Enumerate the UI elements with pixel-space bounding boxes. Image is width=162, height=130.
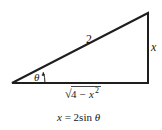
triangle-diagram: 2 x θ √ 4 − x 2 x = 2sin θ bbox=[0, 0, 162, 130]
radicand-var: x bbox=[88, 88, 94, 100]
hypotenuse-label: 2 bbox=[86, 32, 92, 46]
radicand-prefix: 4 − bbox=[71, 88, 85, 100]
svg-text:x = 2sin θ: x = 2sin θ bbox=[56, 111, 101, 123]
angle-label: θ bbox=[34, 71, 40, 83]
caption-angle: θ bbox=[95, 111, 101, 123]
radicand-exponent: 2 bbox=[95, 86, 99, 95]
caption: x = 2sin θ bbox=[56, 111, 101, 123]
angle-arrowhead bbox=[42, 72, 45, 75]
caption-eq: = 2sin bbox=[62, 111, 95, 123]
opposite-side-label: x bbox=[150, 40, 157, 54]
triangle bbox=[12, 13, 148, 83]
adjacent-side-label: √ 4 − x 2 bbox=[65, 86, 101, 101]
